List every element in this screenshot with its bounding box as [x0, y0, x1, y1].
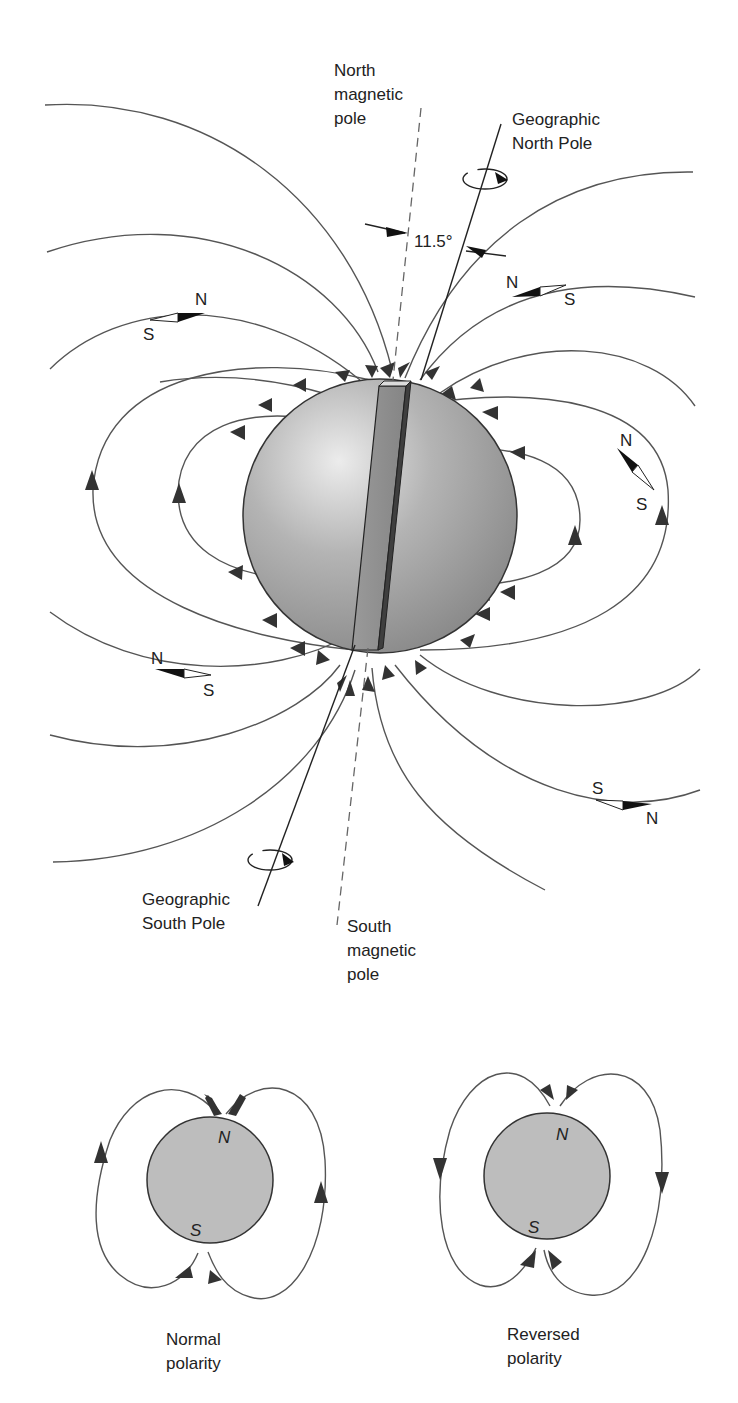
earth-magnetic-field-diagram: 11.5° North magnetic pole Geographic Nor…	[0, 0, 738, 1403]
svg-text:S: S	[636, 495, 647, 514]
svg-text:magnetic: magnetic	[347, 941, 416, 960]
south-magnetic-pole-label: South magnetic pole	[347, 917, 416, 984]
compass-needle-lower-left-icon: N S	[151, 649, 214, 700]
svg-text:S: S	[564, 290, 575, 309]
geographic-north-pole-label: Geographic North Pole	[512, 110, 600, 153]
svg-text:pole: pole	[347, 965, 379, 984]
svg-text:pole: pole	[334, 109, 366, 128]
svg-text:North: North	[334, 61, 376, 80]
reversed-polarity-diagram: N S Reversed polarity	[433, 1073, 669, 1368]
svg-text:Geographic: Geographic	[512, 110, 600, 129]
reversed-polarity-caption-2: polarity	[507, 1349, 562, 1368]
geographic-south-pole-label: Geographic South Pole	[142, 890, 230, 933]
normal-polarity-caption-2: polarity	[166, 1354, 221, 1373]
compass-needle-upper-left-icon: N S	[143, 290, 207, 344]
svg-text:magnetic: magnetic	[334, 85, 403, 104]
north-magnetic-pole-label: North magnetic pole	[334, 61, 403, 128]
angle-label: 11.5°	[414, 232, 453, 251]
svg-text:Geographic: Geographic	[142, 890, 230, 909]
svg-text:South: South	[347, 917, 391, 936]
svg-text:N: N	[620, 431, 632, 450]
svg-text:South Pole: South Pole	[142, 914, 225, 933]
svg-text:S: S	[203, 681, 214, 700]
svg-text:North Pole: North Pole	[512, 134, 592, 153]
reversed-polarity-caption-1: Reversed	[507, 1325, 580, 1344]
svg-text:N: N	[646, 809, 658, 828]
normal-polarity-caption-1: Normal	[166, 1330, 221, 1349]
reversed-north-label: N	[556, 1125, 569, 1144]
svg-text:N: N	[506, 273, 518, 292]
rotation-arrow-south-icon	[248, 850, 294, 870]
normal-south-label: S	[190, 1221, 202, 1240]
reversed-south-label: S	[528, 1218, 540, 1237]
svg-text:N: N	[151, 649, 163, 668]
svg-text:S: S	[592, 779, 603, 798]
svg-text:S: S	[143, 325, 154, 344]
compass-needle-right-icon: N S	[617, 431, 654, 514]
normal-polarity-diagram: N S Normal polarity	[94, 1088, 328, 1373]
svg-text:N: N	[195, 290, 207, 309]
angle-indicator: 11.5°	[365, 224, 506, 258]
compass-needle-lower-right-icon: S N	[592, 779, 658, 828]
normal-north-label: N	[218, 1128, 231, 1147]
